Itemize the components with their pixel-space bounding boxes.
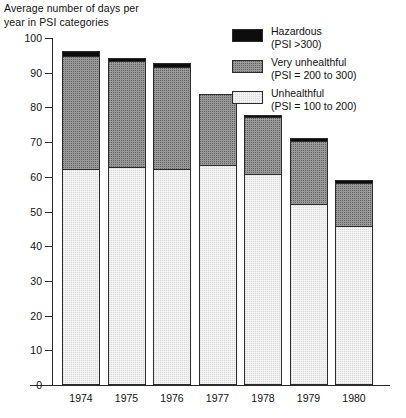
y-axis-tick — [45, 246, 52, 247]
y-axis-tick-label: 70 — [0, 137, 42, 148]
y-axis-tick — [45, 177, 52, 178]
bar-segment-hazardous — [290, 138, 328, 142]
legend-label: Unhealthful — [271, 87, 324, 100]
bar-segment-very-unhealthful — [62, 56, 100, 170]
bar-segment-unhealthful — [153, 169, 191, 385]
legend-sublabel: (PSI >300) — [271, 38, 322, 51]
bar-segment-very-unhealthful — [244, 117, 282, 175]
y-axis-tick-label: 20 — [0, 311, 42, 322]
bar-1976 — [153, 38, 191, 385]
y-axis-tick-value: 30 — [2, 276, 42, 287]
y-axis-tick-label: 0 — [0, 380, 42, 391]
bar-segment-hazardous — [62, 51, 100, 57]
bar-segment-unhealthful — [244, 174, 282, 385]
bar-segment-hazardous — [108, 58, 146, 62]
bar-segment-very-unhealthful — [290, 141, 328, 204]
y-axis-tick-label: 80 — [0, 102, 42, 113]
y-axis-tick-label: 50 — [0, 207, 42, 218]
y-axis-tick-value: 100 — [2, 33, 42, 44]
y-axis-tick — [45, 73, 52, 74]
y-axis-tick — [45, 212, 52, 213]
bar-segment-very-unhealthful — [108, 61, 146, 168]
bar-segment-hazardous — [153, 63, 191, 67]
bar-segment-unhealthful — [335, 226, 373, 385]
stacked-bar-chart: Average number of days per year in PSI c… — [0, 0, 406, 418]
y-axis-tick — [45, 281, 52, 282]
y-axis-tick — [45, 316, 52, 317]
bar-1975 — [108, 38, 146, 385]
bar-segment-hazardous — [335, 180, 373, 184]
legend-item-hazardous: Hazardous (PSI >300) — [232, 27, 404, 54]
bar-segment-unhealthful — [199, 165, 237, 385]
y-axis-tick-value: 10 — [2, 345, 42, 356]
bar-1974 — [62, 38, 100, 385]
y-axis-tick-label: 60 — [0, 172, 42, 183]
legend-label: Very unhealthful — [271, 56, 346, 69]
bar-segment-very-unhealthful — [153, 67, 191, 170]
bar-segment-very-unhealthful — [199, 94, 237, 166]
x-axis-line — [30, 385, 390, 386]
y-axis-tick — [45, 107, 52, 108]
bar-1977 — [199, 38, 237, 385]
y-axis-tick-value: 0 — [2, 380, 42, 391]
hazardous-swatch-icon — [232, 29, 263, 42]
bar-segment-unhealthful — [290, 204, 328, 385]
very-unhealthful-swatch-icon — [232, 60, 263, 73]
y-axis-tick — [45, 385, 52, 386]
y-axis-tick — [45, 38, 52, 39]
chart-title: Average number of days per year in PSI c… — [4, 2, 254, 29]
legend-item-very-unhealthful: Very unhealthful (PSI = 200 to 300) — [232, 58, 404, 85]
chart-legend: Hazardous (PSI >300) Very unhealthful (P… — [232, 27, 404, 120]
legend-sublabel: (PSI = 100 to 200) — [271, 100, 357, 113]
y-axis-tick-label: 90 — [0, 68, 42, 79]
y-axis-tick-label: 30 — [0, 276, 42, 287]
y-axis-tick — [45, 350, 52, 351]
bar-segment-very-unhealthful — [335, 183, 373, 227]
y-axis-tick — [45, 142, 52, 143]
x-axis-label-1980: 1980 — [324, 392, 384, 404]
y-axis-tick-value: 50 — [2, 207, 42, 218]
y-axis-tick-label: 10 — [0, 345, 42, 356]
bar-segment-unhealthful — [62, 169, 100, 385]
legend-sublabel: (PSI = 200 to 300) — [271, 69, 357, 82]
unhealthful-swatch-icon — [232, 91, 263, 104]
y-axis-tick-value: 60 — [2, 172, 42, 183]
y-axis-tick-label: 40 — [0, 241, 42, 252]
y-axis-tick-value: 20 — [2, 311, 42, 322]
y-axis-tick-label: 100 — [0, 33, 42, 44]
y-axis-tick-value: 70 — [2, 137, 42, 148]
y-axis-tick-value: 80 — [2, 102, 42, 113]
y-axis-tick-value: 90 — [2, 68, 42, 79]
y-axis-tick-value: 40 — [2, 241, 42, 252]
legend-item-unhealthful: Unhealthful (PSI = 100 to 200) — [232, 89, 404, 116]
legend-label: Hazardous — [271, 25, 322, 38]
bar-segment-unhealthful — [108, 167, 146, 385]
